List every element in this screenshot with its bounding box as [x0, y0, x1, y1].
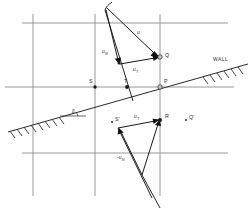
point-label-s-prime: S': [115, 117, 120, 122]
vector-ut-lower-shaft: [118, 121, 155, 128]
diagram-svg: [0, 0, 252, 212]
ray-lower-cross: [118, 128, 152, 198]
point-label-q: Q: [165, 53, 169, 58]
point-marker-q: [158, 55, 162, 59]
figure-canvas: WALL β S T P Q R S' Q' u uN uT uT -uN: [0, 0, 252, 212]
point-marker-p: [158, 85, 162, 89]
vector-label-u: u: [137, 30, 140, 35]
lower-vector-triad: [118, 119, 161, 175]
point-marker-t: [125, 85, 129, 89]
point-label-s: S: [89, 79, 93, 84]
wall-line: [8, 64, 248, 132]
point-label-r: R: [165, 114, 169, 119]
vector-label-un-upper: uN: [102, 49, 108, 57]
ray-lower-long: [142, 175, 160, 208]
point-label-q-prime: Q': [189, 115, 194, 120]
vector-label-ut-lower: uT: [134, 114, 139, 122]
point-marker-s-prime: [111, 121, 113, 123]
wall-group: [8, 64, 248, 138]
vector-resultant-lower-shaft: [142, 124, 158, 175]
vector-un-lower-arrowhead: [118, 128, 124, 135]
point-marker-s: [93, 85, 96, 88]
point-marker-r: [158, 118, 162, 122]
grid-group: [5, 14, 234, 196]
point-marker-q-prime: [185, 119, 187, 121]
vector-un-lower-shaft: [121, 132, 142, 175]
vector-label-un-lower: -uN: [117, 155, 124, 163]
wall-hatching-left: [10, 117, 64, 138]
point-label-p: P: [164, 79, 168, 84]
angle-label: β: [72, 110, 75, 115]
vector-ut-upper-shaft: [120, 58, 155, 64]
point-markers: [93, 55, 187, 123]
point-label-t: T: [124, 79, 127, 84]
wall-label: WALL: [213, 57, 228, 62]
upper-bend-node: [118, 62, 121, 65]
upper-vector-triad: [106, 8, 161, 65]
vector-label-ut-upper: uT: [133, 67, 138, 75]
vector-u-shaft: [107, 8, 156, 55]
